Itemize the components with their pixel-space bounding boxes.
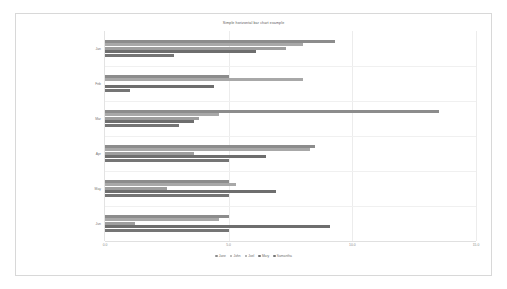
legend-label: Joel — [248, 254, 254, 258]
bar — [105, 187, 167, 190]
bar — [105, 229, 229, 232]
y-axis-label: Feb — [95, 82, 101, 86]
chart-legend: JaneJohnJoelMarySamantha — [16, 254, 491, 258]
x-axis-tick-label: 15.0 — [473, 243, 480, 247]
horizontal-gridline — [105, 66, 476, 67]
bar — [105, 85, 214, 88]
legend-swatch-icon — [215, 255, 217, 257]
bar — [105, 54, 174, 57]
bar — [105, 117, 199, 120]
legend-swatch-icon — [273, 255, 275, 257]
bar — [105, 190, 276, 193]
bar-group — [105, 180, 476, 198]
horizontal-gridline — [105, 101, 476, 102]
bar — [105, 215, 229, 218]
legend-swatch-icon — [258, 255, 260, 257]
legend-label: Mary — [262, 254, 269, 258]
x-axis-tick-label: 0.0 — [103, 243, 108, 247]
bar — [105, 183, 236, 186]
bar-group — [105, 110, 476, 128]
bar — [105, 155, 266, 158]
y-axis-label: May — [95, 187, 101, 191]
bar — [105, 75, 229, 78]
horizontal-gridline — [105, 171, 476, 172]
bar — [105, 47, 286, 50]
y-axis-label: Mar — [95, 117, 101, 121]
bar — [105, 124, 179, 127]
bar — [105, 110, 439, 113]
legend-swatch-icon — [230, 255, 232, 257]
bar — [105, 159, 229, 162]
bar-group — [105, 40, 476, 58]
bar-group — [105, 75, 476, 93]
y-axis-label: Jan — [96, 47, 101, 51]
bar — [105, 78, 303, 81]
legend-item[interactable]: Joel — [245, 254, 255, 258]
vertical-gridline — [476, 31, 477, 241]
bar — [105, 113, 219, 116]
legend-label: Jane — [219, 254, 226, 258]
bar — [105, 218, 219, 221]
legend-item[interactable]: Mary — [258, 254, 269, 258]
plot-area: JanFebMarAprMayJun 0.05.010.015.0 — [104, 31, 476, 241]
bar-group — [105, 145, 476, 163]
bar — [105, 145, 315, 148]
legend-item[interactable]: Jane — [215, 254, 226, 258]
chart-figure: Simple horizontal bar chart example JanF… — [15, 13, 492, 276]
legend-label: John — [234, 254, 241, 258]
x-axis-line — [105, 241, 476, 242]
legend-swatch-icon — [245, 255, 247, 257]
bar — [105, 40, 335, 43]
chart-title: Simple horizontal bar chart example — [16, 21, 491, 25]
bar — [105, 148, 310, 151]
legend-item[interactable]: Samantha — [273, 254, 292, 258]
horizontal-gridline — [105, 206, 476, 207]
bar — [105, 89, 130, 92]
bar — [105, 152, 194, 155]
bar — [105, 194, 229, 197]
bar — [105, 225, 330, 228]
x-axis-tick-label: 10.0 — [349, 243, 356, 247]
bar — [105, 180, 229, 183]
bar — [105, 50, 256, 53]
legend-label: Samantha — [277, 254, 292, 258]
legend-item[interactable]: John — [230, 254, 241, 258]
x-axis-tick-label: 5.0 — [226, 243, 231, 247]
bar-group — [105, 215, 476, 233]
y-axis-label: Jun — [96, 222, 101, 226]
bar — [105, 43, 303, 46]
y-axis-label: Apr — [96, 152, 101, 156]
bar — [105, 222, 135, 225]
horizontal-gridline — [105, 136, 476, 137]
bar — [105, 120, 194, 123]
